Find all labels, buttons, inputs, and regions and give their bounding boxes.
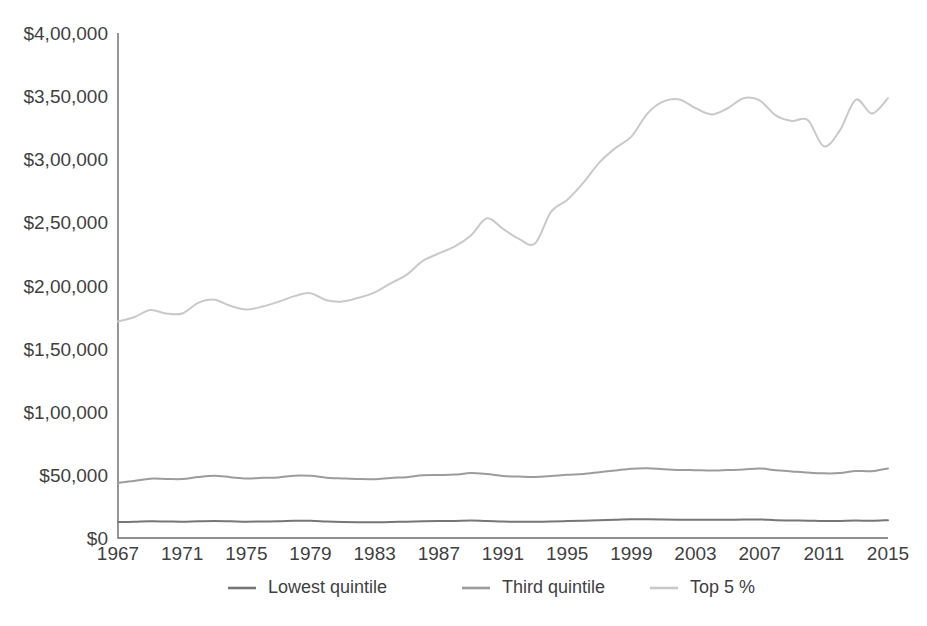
series-line (118, 468, 888, 483)
y-axis-tick-labels: $0$50,000$1,00,000$1,50,000$2,00,000$2,5… (23, 23, 108, 549)
x-tick-label: 2011 (803, 543, 844, 564)
series-line (118, 519, 888, 522)
y-tick-label: $1,50,000 (23, 339, 108, 360)
x-tick-label: 1975 (225, 543, 267, 564)
x-tick-label: 1995 (546, 543, 588, 564)
y-tick-label: $3,00,000 (23, 149, 108, 170)
legend-label: Top 5 % (690, 577, 755, 597)
x-tick-label: 1979 (289, 543, 331, 564)
x-tick-label: 2015 (867, 543, 909, 564)
y-tick-label: $2,00,000 (23, 276, 108, 297)
x-axis-tick-labels: 1967197119751979198319871991199519992003… (97, 543, 909, 564)
y-tick-label: $3,50,000 (23, 86, 108, 107)
chart-legend: Lowest quintileThird quintileTop 5 % (228, 577, 755, 597)
x-tick-label: 1967 (97, 543, 139, 564)
y-tick-label: $2,50,000 (23, 212, 108, 233)
legend-label: Lowest quintile (268, 577, 387, 597)
line-chart: $0$50,000$1,00,000$1,50,000$2,00,000$2,5… (0, 0, 927, 626)
y-tick-label: $50,000 (39, 465, 108, 486)
x-tick-label: 2007 (739, 543, 781, 564)
x-tick-label: 1971 (161, 543, 203, 564)
x-tick-label: 1991 (482, 543, 524, 564)
chart-container: $0$50,000$1,00,000$1,50,000$2,00,000$2,5… (0, 0, 927, 626)
legend-label: Third quintile (502, 577, 605, 597)
series-line (118, 98, 888, 322)
y-tick-label: $1,00,000 (23, 402, 108, 423)
x-tick-label: 1983 (354, 543, 396, 564)
series-group (118, 98, 888, 523)
x-tick-label: 1999 (610, 543, 652, 564)
plot-axes (118, 33, 888, 538)
x-tick-label: 1987 (418, 543, 460, 564)
y-tick-label: $4,00,000 (23, 23, 108, 44)
x-tick-label: 2003 (674, 543, 716, 564)
